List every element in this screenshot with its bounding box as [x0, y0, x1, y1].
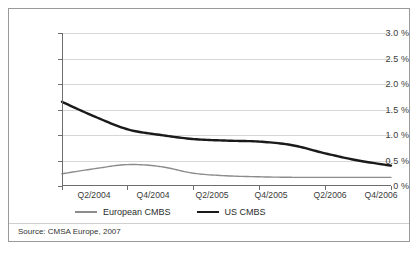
xtick-mark-2: [193, 186, 194, 190]
plot-area: [62, 33, 391, 186]
chart-legend: European CMBS US CMBS: [9, 207, 409, 217]
xtick-mark-4: [325, 186, 326, 190]
source-divider: [9, 223, 409, 224]
ytick-mark-2-0: [58, 84, 62, 85]
xtick-mark-1: [127, 186, 128, 190]
xtick-label-q2-2005: Q2/2005: [196, 190, 229, 200]
ytick-mark-1-5: [58, 110, 62, 111]
ytick-mark-0-5: [58, 161, 62, 162]
ytick-label-0-5: 0.5 %: [363, 156, 409, 166]
ytick-label-1-0: 1.0 %: [363, 130, 409, 140]
xtick-label-q4-2005: Q4/2005: [255, 190, 288, 200]
source-note: Source: CMSA Europe, 2007: [18, 227, 121, 236]
legend-swatch-line-icon-european: [75, 211, 97, 212]
ytick-mark-3-0: [58, 33, 62, 34]
xtick-label-q4-2004: Q4/2004: [137, 190, 170, 200]
legend-label-european-cmbs: European CMBS: [103, 207, 171, 217]
xtick-mark-start: [62, 186, 63, 190]
ytick-label-2-0: 2.0 %: [363, 79, 409, 89]
xtick-label-q2-2004: Q2/2004: [78, 190, 111, 200]
ytick-mark-1-0: [58, 135, 62, 136]
xtick-label-q2-2006: Q2/2006: [314, 190, 347, 200]
series-lines: [62, 33, 391, 186]
legend-swatch-line-icon-us: [197, 211, 219, 214]
ytick-label-3-0: 3.0 %: [363, 28, 409, 38]
xtick-mark-5: [391, 186, 392, 190]
xtick-label-q4-2006: Q4/2006: [365, 190, 398, 200]
line-european-cmbs: [62, 165, 391, 178]
legend-entry-european-cmbs: European CMBS: [75, 207, 171, 217]
ytick-label-2-5: 2.5 %: [363, 54, 409, 64]
ytick-mark-2-5: [58, 59, 62, 60]
ytick-label-1-5: 1.5 %: [363, 105, 409, 115]
xtick-mark-3: [259, 186, 260, 190]
chart-figure: 3.0 % 2.5 % 2.0 % 1.5 % 1.0 % 0.5 % 0 % …: [8, 8, 410, 242]
legend-label-us-cmbs: US CMBS: [225, 207, 266, 217]
line-us-cmbs: [62, 102, 391, 166]
legend-entry-us-cmbs: US CMBS: [197, 207, 266, 217]
